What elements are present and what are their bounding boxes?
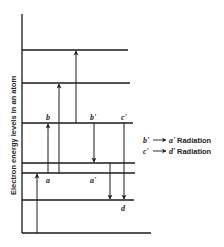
label-b-prime: b' [90,113,97,122]
legend: b' a' Radiation c' d' Radiation [143,136,212,156]
energy-level-diagram: b b' c' a a' d Electron energy levels in… [0,0,224,247]
legend-2-text: Radiation [177,147,212,156]
legend-1-text: Radiation [177,136,212,145]
legend-2-to: d' [169,147,176,156]
label-b: b [46,113,50,122]
label-c-prime: c' [121,113,128,122]
legend-1-to: a' [169,136,176,145]
y-axis-label: Electron energy levels in an atom [9,75,18,195]
label-a: a [46,176,50,185]
legend-2-from: c' [143,147,150,156]
legend-1-from: b' [143,136,150,145]
label-a-prime: a' [90,176,97,185]
label-d: d [121,204,126,213]
